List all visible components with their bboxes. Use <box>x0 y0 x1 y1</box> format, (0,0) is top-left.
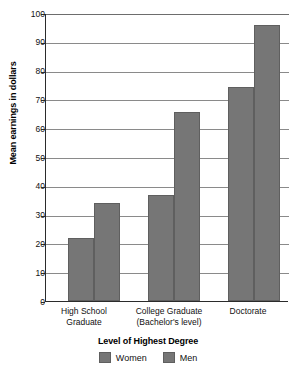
bar-women-high-school-graduate <box>68 238 94 301</box>
x-category-label-line1: College Graduate <box>119 306 219 317</box>
legend-entry-men: Men <box>163 352 198 363</box>
bar-chart-figure: Mean earnings in dollars 100 90 80 70 60… <box>0 0 296 368</box>
x-category-label-line1: High School <box>48 306 120 317</box>
legend-swatch-icon <box>163 352 175 363</box>
legend-entry-women: Women <box>99 352 147 363</box>
x-category-label-college-graduate: College Graduate (Bachelor's level) <box>119 306 219 328</box>
legend-label-men: Men <box>180 353 198 363</box>
bar-men-college-graduate <box>174 112 200 301</box>
bar-women-college-graduate <box>148 195 174 301</box>
legend-label-women: Women <box>116 353 147 363</box>
x-category-label-line2: Graduate <box>48 317 120 328</box>
bar-men-high-school-graduate <box>94 203 120 301</box>
plot-area <box>45 14 288 302</box>
x-axis-title: Level of Highest Degree <box>0 336 296 346</box>
bar-women-doctorate <box>228 87 254 301</box>
x-category-label-line1: Doctorate <box>213 306 283 317</box>
y-axis-title: Mean earnings in dollars <box>8 48 18 178</box>
legend: Women Men <box>0 352 296 363</box>
bar-men-doctorate <box>254 25 280 301</box>
x-category-label-line2: (Bachelor's level) <box>119 317 219 328</box>
x-category-label-doctorate: Doctorate <box>213 306 283 317</box>
legend-swatch-icon <box>99 352 111 363</box>
x-category-label-high-school-graduate: High School Graduate <box>48 306 120 328</box>
